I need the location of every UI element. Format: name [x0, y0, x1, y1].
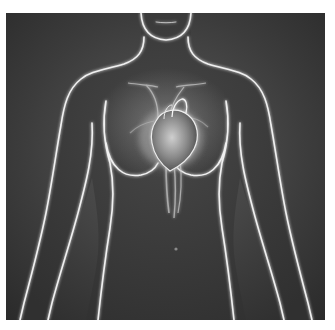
navel [174, 247, 177, 250]
female-torso-heart-illustration [6, 13, 325, 320]
illustration-frame: Semi-transparent female upper body with … [6, 13, 325, 320]
